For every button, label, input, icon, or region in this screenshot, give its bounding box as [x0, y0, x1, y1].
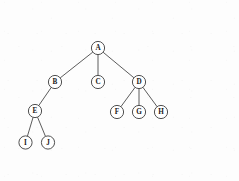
node-label-c: C [95, 78, 100, 86]
tree-edge-a-b [60, 52, 93, 78]
tree-node-d[interactable]: D [132, 75, 145, 88]
tree-diagram: ABCDEFGHIJ [0, 0, 239, 181]
tree-edge-a-d [103, 52, 134, 78]
tree-node-c[interactable]: C [91, 75, 104, 88]
diagram-canvas: ABCDEFGHIJ [0, 0, 239, 181]
edges-layer [27, 52, 157, 136]
tree-node-i[interactable]: I [19, 136, 32, 149]
node-label-j: J [46, 139, 50, 147]
node-label-h: H [158, 108, 164, 116]
tree-node-b[interactable]: B [48, 75, 61, 88]
tree-edge-e-i [27, 117, 33, 136]
tree-edge-e-j [38, 117, 46, 136]
tree-node-j[interactable]: J [41, 136, 54, 149]
node-label-f: F [115, 108, 120, 116]
nodes-layer: ABCDEFGHIJ [19, 41, 168, 149]
node-label-g: G [136, 108, 142, 116]
tree-node-e[interactable]: E [28, 104, 41, 117]
node-label-b: B [53, 78, 58, 86]
node-label-i: I [24, 139, 27, 147]
tree-edge-d-f [121, 87, 135, 106]
node-label-d: D [136, 78, 141, 86]
tree-node-g[interactable]: G [132, 105, 145, 118]
node-label-e: E [33, 107, 38, 115]
tree-node-f[interactable]: F [110, 105, 123, 118]
tree-edge-d-h [143, 87, 157, 106]
tree-edge-b-e [39, 87, 52, 105]
node-label-a: A [95, 44, 101, 52]
tree-node-a[interactable]: A [91, 41, 104, 54]
tree-node-h[interactable]: H [154, 105, 167, 118]
